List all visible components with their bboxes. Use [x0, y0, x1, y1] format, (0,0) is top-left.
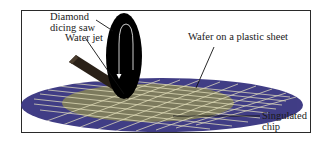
diamond-saw-blade [106, 13, 142, 99]
saw-leader [96, 20, 113, 31]
label-diamond-saw-line1: Diamond [50, 11, 89, 22]
label-chip-line1: Singulated [262, 110, 307, 121]
label-wafer: Wafer on a plastic sheet [188, 31, 288, 42]
label-water-jet: Water jet [65, 32, 103, 43]
label-chip-line2: chip [262, 121, 280, 132]
